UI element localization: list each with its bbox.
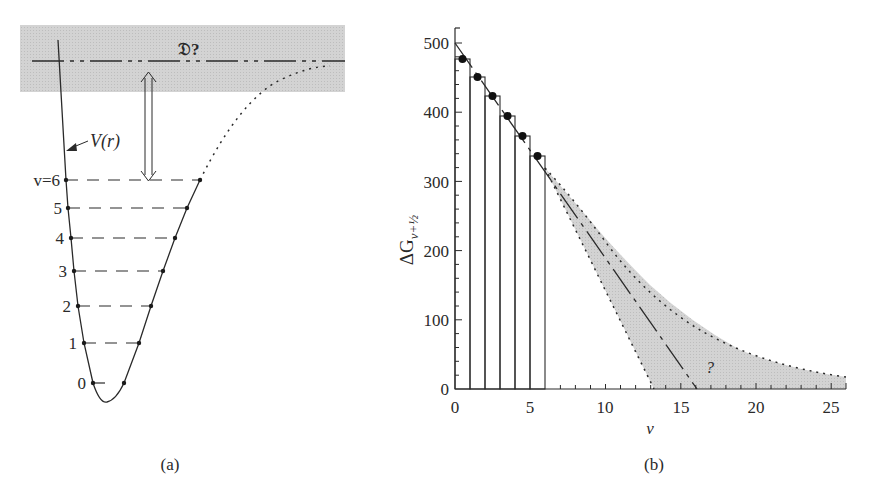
turning-points xyxy=(64,178,202,385)
uncertainty-question-mark: ? xyxy=(706,359,714,376)
potential-curve xyxy=(58,40,200,402)
histogram-bars xyxy=(455,59,545,389)
panel-b: 0 100 200 300 400 500 0 5 10 15 20 25 v … xyxy=(396,28,846,474)
panel-a-label: (a) xyxy=(161,455,180,474)
y-tick-300: 300 xyxy=(424,173,450,192)
y-ticks xyxy=(455,43,462,375)
level-label-5: 5 xyxy=(54,199,63,218)
panel-a: 𝔇? V(r) xyxy=(20,25,345,474)
y-axis-label-main: ΔG xyxy=(396,239,417,265)
y-tick-100: 100 xyxy=(424,311,450,330)
x-tick-25: 25 xyxy=(823,398,840,417)
level-label-4: 4 xyxy=(56,229,65,248)
x-tick-15: 15 xyxy=(673,398,690,417)
level-label-3: 3 xyxy=(59,262,68,281)
level-labels: v=6 5 4 3 2 1 0 xyxy=(33,171,86,393)
x-tick-0: 0 xyxy=(451,398,460,417)
svg-text:ΔGv+½: ΔGv+½ xyxy=(396,215,421,265)
y-axis-label-sub: v+½ xyxy=(406,215,421,240)
figure-canvas: 𝔇? V(r) xyxy=(0,0,869,498)
pointer-arrowhead-icon xyxy=(66,143,77,151)
potential-label: V(r) xyxy=(90,131,120,152)
y-tick-500: 500 xyxy=(424,34,450,53)
y-tick-0: 0 xyxy=(441,380,450,399)
x-tick-20: 20 xyxy=(748,398,765,417)
panel-b-label: (b) xyxy=(644,455,664,474)
x-tick-labels: 0 5 10 15 20 25 xyxy=(451,398,840,417)
uncertainty-region xyxy=(545,168,846,389)
level-label-6: v=6 xyxy=(33,171,60,190)
dissociation-label: 𝔇? xyxy=(178,40,200,59)
y-tick-400: 400 xyxy=(424,103,450,122)
y-axis-label: ΔGv+½ xyxy=(396,215,421,265)
level-label-0: 0 xyxy=(78,374,87,393)
x-axis-label: v xyxy=(646,419,654,438)
x-tick-5: 5 xyxy=(526,398,535,417)
y-tick-200: 200 xyxy=(424,242,450,261)
y-tick-labels: 0 100 200 300 400 500 xyxy=(424,34,450,399)
level-label-1: 1 xyxy=(69,334,78,353)
level-label-2: 2 xyxy=(63,297,72,316)
x-tick-10: 10 xyxy=(597,398,614,417)
